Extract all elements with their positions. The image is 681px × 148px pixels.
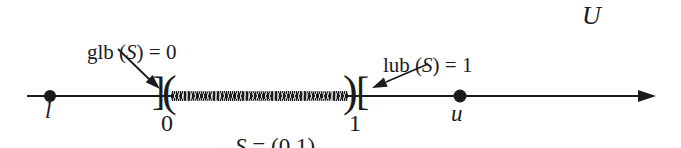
glb-lub-number-line-figure: ] ( ) [ glb (S) = 0 lub (S) = 1 U 0 1 S … xyxy=(0,0,681,148)
interval-label: S = (0,1) xyxy=(212,112,315,148)
lub-label-prefix: lub ( xyxy=(383,53,422,77)
glb-label: glb (S) = 0 xyxy=(66,21,176,84)
axis-arrowhead-icon xyxy=(638,90,656,102)
lub-label-variable: S xyxy=(422,53,433,77)
interval-hatched-segment xyxy=(171,91,348,101)
glb-label-prefix: glb ( xyxy=(87,40,126,64)
interval-label-rest: = (0,1) xyxy=(247,134,316,148)
glb-label-suffix: ) = 0 xyxy=(137,40,177,64)
lub-label-suffix: ) = 1 xyxy=(433,53,473,77)
lub-label: lub (S) = 1 xyxy=(362,34,472,97)
lower-bound-label: l xyxy=(45,99,51,122)
tick-label-1: 1 xyxy=(349,111,361,135)
tick-label-0: 0 xyxy=(161,111,173,135)
glb-label-variable: S xyxy=(126,40,137,64)
universe-label: U xyxy=(582,3,601,29)
interval-label-variable: S xyxy=(235,134,247,148)
upper-bound-label: u xyxy=(451,102,463,125)
